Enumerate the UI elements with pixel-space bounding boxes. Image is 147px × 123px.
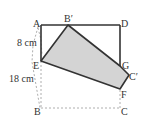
folding-diagram: A B′ D E G C′ F B C 8 cm 18 cm [0,0,147,123]
measurement-AB: 18 cm [9,73,34,84]
label-D: D [121,18,128,29]
label-C: C [121,106,128,117]
measurement-AE: 8 cm [17,37,37,48]
folded-region [41,25,129,89]
label-F: F [121,89,127,100]
label-A: A [33,18,41,29]
label-E: E [33,60,39,71]
label-B-prime: B′ [64,13,73,24]
label-G: G [122,60,129,71]
label-C-prime: C′ [129,71,138,82]
label-B: B [34,106,41,117]
